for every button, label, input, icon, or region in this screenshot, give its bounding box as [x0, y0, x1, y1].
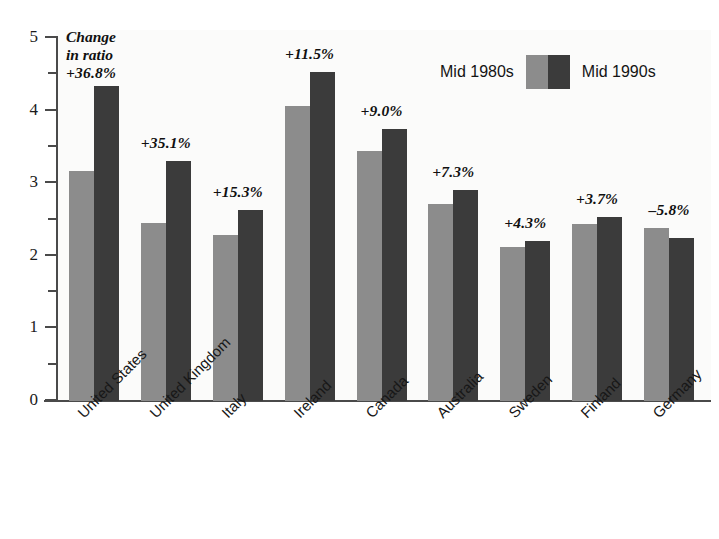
bar-mid-1990s — [238, 210, 263, 401]
legend-swatch-dark — [548, 55, 570, 89]
y-axis-tick-major — [45, 36, 56, 38]
change-in-ratio-label: +11.5% — [273, 45, 347, 63]
bar-mid-1980s — [69, 171, 94, 401]
bar-mid-1990s — [310, 72, 335, 401]
bar-group — [357, 30, 407, 401]
bar-mid-1980s — [500, 247, 525, 401]
bar-mid-1990s — [166, 161, 191, 401]
y-axis-tick-label: 3 — [16, 172, 38, 192]
change-in-ratio-label: +36.8% — [66, 64, 116, 82]
y-axis-tick-minor — [48, 363, 56, 365]
y-axis-tick-minor — [48, 145, 56, 147]
y-axis-tick-label: 2 — [16, 245, 38, 265]
y-axis-line — [56, 36, 58, 402]
change-in-ratio-label: +15.3% — [201, 183, 275, 201]
y-axis-tick-label: 1 — [16, 317, 38, 337]
y-axis-tick-major — [45, 181, 56, 183]
bar-mid-1980s — [213, 235, 238, 401]
bar-mid-1980s — [357, 151, 382, 401]
bar-mid-1980s — [285, 106, 310, 401]
bar-mid-1980s — [644, 228, 669, 401]
bar-mid-1990s — [94, 86, 119, 401]
y-axis-tick-label: 0 — [16, 390, 38, 410]
change-in-ratio-label: +35.1% — [129, 134, 203, 152]
bar-group — [428, 30, 478, 401]
bar-mid-1980s — [141, 223, 166, 401]
bar-mid-1990s — [382, 129, 407, 401]
change-in-ratio-label: –5.8% — [632, 201, 706, 219]
bar-group — [141, 30, 191, 401]
y-axis-tick-major — [45, 399, 56, 401]
bar-group — [69, 30, 119, 401]
bar-chart-figure: 543210 Change in ratio Mid 1980s Mid 199… — [0, 0, 719, 539]
y-axis-tick-label: 5 — [16, 27, 38, 47]
y-axis-tick-label: 4 — [16, 100, 38, 120]
change-in-ratio-label: +9.0% — [345, 102, 419, 120]
y-axis-tick-minor — [48, 72, 56, 74]
y-axis-tick-minor — [48, 290, 56, 292]
change-in-ratio-label: +3.7% — [560, 190, 634, 208]
bar-group — [572, 30, 622, 401]
bar-mid-1990s — [597, 217, 622, 401]
y-axis-tick-minor — [48, 218, 56, 220]
change-in-ratio-label: +7.3% — [416, 163, 490, 181]
change-in-ratio-label: +4.3% — [488, 214, 562, 232]
y-axis-tick-major — [45, 326, 56, 328]
y-axis-tick-major — [45, 254, 56, 256]
bar-mid-1980s — [428, 204, 453, 401]
y-axis-tick-major — [45, 109, 56, 111]
bar-mid-1980s — [572, 224, 597, 401]
bar-group — [285, 30, 335, 401]
